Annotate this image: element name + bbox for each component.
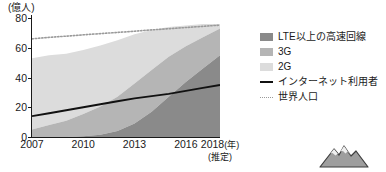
y-axis-tick-label: 40 — [15, 72, 27, 83]
chart-canvas — [32, 18, 220, 137]
x-axis-tick-value: 2013 — [123, 138, 146, 150]
x-axis-note: (推定) — [201, 152, 239, 163]
stacked-area-group — [32, 24, 220, 137]
x-axis-tick-label: 2013 — [123, 139, 146, 150]
legend-item[interactable]: 世界人口 — [260, 90, 384, 104]
legend-dotted-line-icon — [260, 93, 273, 101]
legend-item-label: LTE以上の高速回線 — [278, 31, 366, 43]
legend-line-icon — [260, 78, 273, 86]
y-axis-tick — [28, 78, 32, 79]
x-axis-tick-value: 2007 — [20, 138, 43, 150]
y-axis-tick-label: 60 — [15, 43, 27, 54]
legend-item[interactable]: LTE以上の高速回線 — [260, 30, 384, 44]
legend-item-label: 世界人口 — [278, 91, 318, 103]
legend-item-label: 3G — [278, 46, 291, 58]
chart-plot-wrapper: 020406080 — [32, 18, 220, 137]
x-axis-unit: (年) — [224, 140, 239, 150]
legend-item[interactable]: 3G — [260, 45, 384, 59]
legend-item[interactable]: 2G — [260, 60, 384, 74]
legend-swatch-icon — [260, 63, 273, 71]
chart-plot-area — [32, 18, 220, 137]
x-axis-tick-label: 2010 — [72, 139, 95, 150]
legend-item-label: インターネット利用者 — [278, 76, 378, 88]
x-axis-tick-label: 2007 — [20, 139, 43, 150]
x-axis-tick-value: 2018 — [201, 138, 224, 150]
y-axis-tick-label: 80 — [15, 13, 27, 24]
y-axis-line — [31, 15, 32, 137]
x-axis-tick-label: 2018(年)(推定) — [201, 139, 239, 163]
legend-swatch-icon — [260, 33, 273, 41]
y-axis-tick — [28, 18, 32, 19]
legend-item[interactable]: インターネット利用者 — [260, 75, 384, 89]
y-axis-tick — [28, 107, 32, 108]
x-axis-tick-value: 2016 — [174, 138, 197, 150]
legend-item-label: 2G — [278, 61, 291, 73]
chart-legend: LTE以上の高速回線3G2Gインターネット利用者世界人口 — [260, 30, 384, 105]
mountain-illustration-icon — [318, 142, 370, 168]
x-axis-tick-label: 2016 — [174, 139, 197, 150]
y-axis-tick — [28, 48, 32, 49]
legend-swatch-icon — [260, 48, 273, 56]
x-axis-labels: 20072010201320162018(年)(推定) — [32, 139, 232, 169]
y-axis-tick-label: 20 — [15, 102, 27, 113]
x-axis-tick-value: 2010 — [72, 138, 95, 150]
